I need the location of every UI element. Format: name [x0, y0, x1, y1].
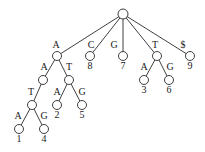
- node-AA: [39, 76, 48, 85]
- node-T: [153, 52, 162, 61]
- node-AT: [65, 76, 74, 85]
- edge-label-AAT-A: A: [14, 110, 22, 121]
- leaf-label-8: 8: [88, 60, 93, 71]
- leaf-label-9: 9: [188, 60, 193, 71]
- edge-label-AT-A: A: [53, 86, 61, 97]
- leaf-label-2: 2: [55, 109, 60, 120]
- edge-label-root-G: G: [110, 39, 117, 50]
- leaf-label-3: 3: [142, 84, 147, 95]
- node-AAT: [28, 101, 37, 110]
- edge-label-root-T: T: [152, 39, 158, 50]
- edge-label-root-A: A: [52, 39, 60, 50]
- edge-label-A-T: T: [66, 61, 72, 72]
- edge-label-T-G: G: [166, 61, 173, 72]
- edge-label-A-A: A: [40, 61, 48, 72]
- root-node: [118, 9, 128, 19]
- suffix-tree-diagram: A C G T $ A T A G T A G A G 8 7 9 3 6 2 …: [0, 0, 205, 152]
- edge-label-root-dollar: $: [181, 39, 186, 50]
- leaf-label-5: 5: [80, 109, 85, 120]
- edge-root-C: [90, 14, 123, 56]
- edge-label-T-A: A: [140, 61, 148, 72]
- leaf-label-7: 7: [121, 60, 126, 71]
- edge-label-AA-T: T: [28, 86, 34, 97]
- leaf-label-1: 1: [17, 133, 22, 144]
- edge-label-AAT-G: G: [40, 110, 47, 121]
- node-A: [53, 52, 62, 61]
- leaf-label-4: 4: [42, 133, 47, 144]
- leaf-label-6: 6: [167, 84, 172, 95]
- edge-label-root-C: C: [88, 39, 95, 50]
- edge-label-AT-G: G: [78, 86, 85, 97]
